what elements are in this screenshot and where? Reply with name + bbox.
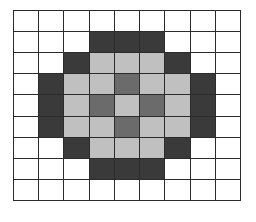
pixel-cell-r1-c2[interactable]	[64, 32, 89, 53]
pixel-cell-r7-c0[interactable]	[14, 158, 39, 179]
pixel-cell-r1-c4[interactable]	[114, 32, 139, 53]
pixel-cell-r5-c0[interactable]	[14, 116, 39, 137]
pixel-cell-r3-c1[interactable]	[39, 74, 64, 95]
pixel-cell-r8-c3[interactable]	[89, 179, 114, 200]
pixel-cell-r0-c6[interactable]	[165, 11, 190, 32]
pixel-cell-r8-c4[interactable]	[114, 179, 139, 200]
pixel-cell-r3-c4[interactable]	[114, 74, 139, 95]
pixel-cell-r6-c5[interactable]	[140, 137, 165, 158]
pixel-cell-r4-c7[interactable]	[190, 95, 215, 116]
pixel-cell-r0-c7[interactable]	[190, 11, 215, 32]
pixel-grid-row	[14, 179, 241, 200]
pixel-cell-r2-c5[interactable]	[140, 53, 165, 74]
pixel-cell-r0-c2[interactable]	[64, 11, 89, 32]
pixel-cell-r2-c8[interactable]	[215, 53, 240, 74]
pixel-cell-r5-c4[interactable]	[114, 116, 139, 137]
pixel-cell-r5-c1[interactable]	[39, 116, 64, 137]
pixel-cell-r4-c6[interactable]	[165, 95, 190, 116]
pixel-cell-r3-c0[interactable]	[14, 74, 39, 95]
pixel-grid-row	[14, 11, 241, 32]
pixel-cell-r2-c7[interactable]	[190, 53, 215, 74]
pixel-cell-r2-c0[interactable]	[14, 53, 39, 74]
pixel-cell-r1-c6[interactable]	[165, 32, 190, 53]
pixel-grid-row	[14, 137, 241, 158]
pixel-cell-r6-c7[interactable]	[190, 137, 215, 158]
pixel-cell-r3-c2[interactable]	[64, 74, 89, 95]
pixel-cell-r0-c1[interactable]	[39, 11, 64, 32]
pixel-cell-r1-c5[interactable]	[140, 32, 165, 53]
pixel-cell-r0-c4[interactable]	[114, 11, 139, 32]
pixel-cell-r1-c8[interactable]	[215, 32, 240, 53]
pixel-cell-r5-c2[interactable]	[64, 116, 89, 137]
pixel-cell-r6-c6[interactable]	[165, 137, 190, 158]
pixel-cell-r7-c7[interactable]	[190, 158, 215, 179]
pixel-cell-r7-c2[interactable]	[64, 158, 89, 179]
pixel-cell-r6-c1[interactable]	[39, 137, 64, 158]
pixel-cell-r2-c3[interactable]	[89, 53, 114, 74]
pixel-cell-r2-c2[interactable]	[64, 53, 89, 74]
pixel-cell-r8-c5[interactable]	[140, 179, 165, 200]
pixel-cell-r5-c5[interactable]	[140, 116, 165, 137]
pixel-grid-body	[14, 11, 241, 201]
pixel-cell-r3-c5[interactable]	[140, 74, 165, 95]
pixel-cell-r5-c3[interactable]	[89, 116, 114, 137]
pixel-cell-r7-c5[interactable]	[140, 158, 165, 179]
pixel-cell-r8-c0[interactable]	[14, 179, 39, 200]
pixel-cell-r6-c0[interactable]	[14, 137, 39, 158]
pixel-cell-r6-c4[interactable]	[114, 137, 139, 158]
pixel-cell-r7-c3[interactable]	[89, 158, 114, 179]
pixel-cell-r4-c5[interactable]	[140, 95, 165, 116]
pixel-cell-r6-c3[interactable]	[89, 137, 114, 158]
pixel-grid-row	[14, 158, 241, 179]
pixel-cell-r1-c1[interactable]	[39, 32, 64, 53]
pixel-cell-r1-c7[interactable]	[190, 32, 215, 53]
pixel-cell-r7-c4[interactable]	[114, 158, 139, 179]
pixel-cell-r4-c0[interactable]	[14, 95, 39, 116]
pixel-cell-r3-c6[interactable]	[165, 74, 190, 95]
pixel-cell-r6-c8[interactable]	[215, 137, 240, 158]
pixel-cell-r8-c1[interactable]	[39, 179, 64, 200]
pixel-cell-r8-c7[interactable]	[190, 179, 215, 200]
pixel-grid-table	[13, 10, 241, 201]
pixel-cell-r1-c3[interactable]	[89, 32, 114, 53]
pixel-cell-r4-c3[interactable]	[89, 95, 114, 116]
pixel-cell-r8-c8[interactable]	[215, 179, 240, 200]
pixel-cell-r7-c1[interactable]	[39, 158, 64, 179]
pixel-grid-figure	[13, 10, 241, 201]
pixel-cell-r5-c8[interactable]	[215, 116, 240, 137]
pixel-cell-r4-c2[interactable]	[64, 95, 89, 116]
pixel-cell-r7-c8[interactable]	[215, 158, 240, 179]
pixel-grid-row	[14, 53, 241, 74]
pixel-cell-r2-c6[interactable]	[165, 53, 190, 74]
pixel-cell-r3-c8[interactable]	[215, 74, 240, 95]
pixel-cell-r8-c2[interactable]	[64, 179, 89, 200]
pixel-cell-r1-c0[interactable]	[14, 32, 39, 53]
pixel-cell-r4-c1[interactable]	[39, 95, 64, 116]
pixel-cell-r4-c8[interactable]	[215, 95, 240, 116]
pixel-cell-r7-c6[interactable]	[165, 158, 190, 179]
pixel-cell-r8-c6[interactable]	[165, 179, 190, 200]
pixel-cell-r0-c0[interactable]	[14, 11, 39, 32]
pixel-cell-r0-c3[interactable]	[89, 11, 114, 32]
pixel-cell-r3-c3[interactable]	[89, 74, 114, 95]
pixel-cell-r6-c2[interactable]	[64, 137, 89, 158]
pixel-grid-row	[14, 32, 241, 53]
pixel-cell-r0-c5[interactable]	[140, 11, 165, 32]
pixel-grid-row	[14, 95, 241, 116]
pixel-cell-r4-c4[interactable]	[114, 95, 139, 116]
pixel-cell-r2-c1[interactable]	[39, 53, 64, 74]
pixel-cell-r5-c6[interactable]	[165, 116, 190, 137]
pixel-cell-r0-c8[interactable]	[215, 11, 240, 32]
pixel-cell-r5-c7[interactable]	[190, 116, 215, 137]
pixel-grid-row	[14, 74, 241, 95]
pixel-grid-row	[14, 116, 241, 137]
pixel-cell-r2-c4[interactable]	[114, 53, 139, 74]
pixel-cell-r3-c7[interactable]	[190, 74, 215, 95]
